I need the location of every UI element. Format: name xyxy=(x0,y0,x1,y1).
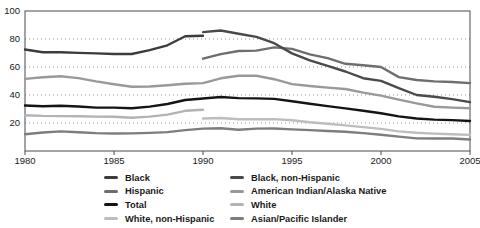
legend-item-asian-pacific-islander: Asian/Pacific Islander xyxy=(230,212,386,226)
legend-item-white-non-hispanic: White, non-Hispanic xyxy=(104,212,214,226)
y-tick-label: 20 xyxy=(9,117,20,128)
legend-swatch-icon xyxy=(104,176,118,179)
legend-swatch-icon xyxy=(104,217,118,220)
legend-item-white: White xyxy=(230,198,386,212)
chart-legend-column-2: Black, non-HispanicAmerican Indian/Alask… xyxy=(230,171,386,225)
y-tick-label: 100 xyxy=(4,5,20,16)
legend-label: American Indian/Alaska Native xyxy=(251,186,386,196)
legend-swatch-icon xyxy=(230,190,244,193)
series-line-hispanic xyxy=(203,47,470,83)
x-tick-label: 1990 xyxy=(192,155,213,166)
series-line-american-indian-alaska-native xyxy=(25,76,470,109)
y-tick-label: 60 xyxy=(9,61,20,72)
y-tick-label: 80 xyxy=(9,33,20,44)
legend-item-american-indian-alaska-native: American Indian/Alaska Native xyxy=(230,185,386,199)
legend-swatch-icon xyxy=(230,217,244,220)
legend-swatch-icon xyxy=(230,203,244,206)
legend-label: Black xyxy=(125,173,150,183)
legend-swatch-icon xyxy=(230,176,244,179)
legend-swatch-icon xyxy=(104,190,118,193)
legend-item-total: Total xyxy=(104,198,214,212)
x-tick-label: 1985 xyxy=(103,155,124,166)
legend-item-black: Black xyxy=(104,171,214,185)
line-chart: 20406080100198019851990199520002005 xyxy=(0,0,480,168)
chart-legend-column-1: BlackHispanicTotalWhite, non-Hispanic xyxy=(104,171,214,225)
legend-label: Total xyxy=(125,200,147,210)
legend-label: Black, non-Hispanic xyxy=(251,173,340,183)
x-tick-label: 2000 xyxy=(370,155,391,166)
legend-label: Asian/Pacific Islander xyxy=(251,214,347,224)
legend-swatch-icon xyxy=(104,203,118,206)
x-tick-label: 1995 xyxy=(281,155,302,166)
x-tick-label: 1980 xyxy=(14,155,35,166)
legend-label: White xyxy=(251,200,276,210)
legend-label: White, non-Hispanic xyxy=(125,214,214,224)
legend-label: Hispanic xyxy=(125,186,164,196)
series-line-white xyxy=(25,110,203,118)
series-line-black-non-hispanic xyxy=(203,31,470,103)
legend-item-black-non-hispanic: Black, non-Hispanic xyxy=(230,171,386,185)
line-chart-figure: 20406080100198019851990199520002005 Blac… xyxy=(0,0,480,228)
legend-item-hispanic: Hispanic xyxy=(104,185,214,199)
y-tick-label: 40 xyxy=(9,89,20,100)
x-tick-label: 2005 xyxy=(459,155,480,166)
series-line-asian-pacific-islander xyxy=(25,128,470,139)
